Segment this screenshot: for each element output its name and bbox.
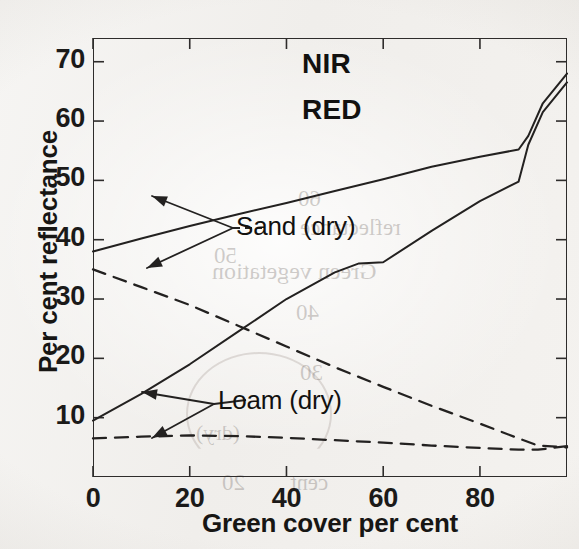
legend-item-nir: NIR <box>150 48 410 94</box>
y-tick-label-70: 70 <box>29 44 85 75</box>
x-axis-title: Green cover per cent <box>93 508 567 539</box>
legend-label-red: RED <box>302 94 362 126</box>
legend-label-nir: NIR <box>302 48 351 80</box>
annotation-sand-dry: Sand (dry) <box>236 211 355 242</box>
y-axis-title: Per cent reflectance <box>33 72 64 432</box>
legend-item-red: RED <box>150 94 410 140</box>
curve-sand-red <box>93 269 567 447</box>
figure-root: dependence of reflection on the view ang… <box>0 0 579 549</box>
curve-loam-red <box>93 435 567 449</box>
annotation-loam-dry: Loam (dry) <box>218 385 342 416</box>
legend: NIR RED <box>150 48 410 140</box>
